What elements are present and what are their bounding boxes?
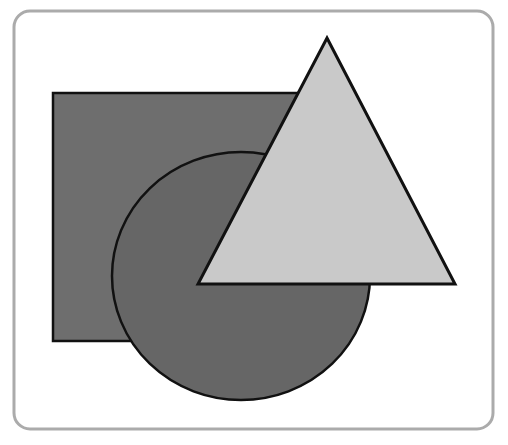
shapes-diagram	[0, 0, 508, 445]
